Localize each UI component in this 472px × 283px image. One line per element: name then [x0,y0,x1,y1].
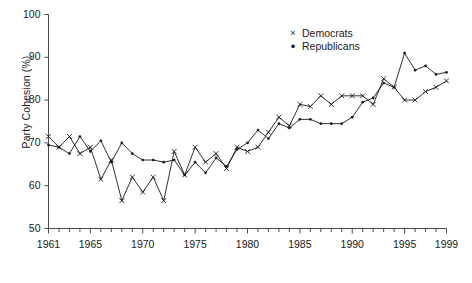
y-tick-label: 100 [11,9,41,20]
series-republicans [47,52,448,177]
x-tick-label: 1999 [427,239,467,250]
legend-item-democrats: × Democrats [286,27,360,40]
figure-container: Party Cohesion (%) 5060708090100 1961196… [0,0,472,283]
legend-label-republicans: Republicans [300,40,360,53]
x-tick-label: 1965 [70,239,110,250]
x-tick-label: 1985 [280,239,320,250]
data-series-group [46,52,449,203]
chart-legend: × Democrats • Republicans [286,27,360,53]
legend-label-democrats: Democrats [300,27,353,40]
x-tick-label: 1975 [175,239,215,250]
x-tick-label: 1961 [29,239,69,250]
legend-marker-dot-icon: • [286,40,300,53]
x-tick-label: 1995 [385,239,425,250]
x-tick-label: 1990 [332,239,372,250]
axes-group [45,15,447,234]
x-tick-label: 1970 [123,239,163,250]
legend-item-republicans: • Republicans [286,40,360,53]
y-tick-label: 50 [11,223,41,234]
x-tick-label: 1980 [228,239,268,250]
y-tick-label: 70 [11,137,41,148]
y-tick-label: 80 [11,94,41,105]
series-democrats [46,76,449,203]
y-tick-label: 90 [11,51,41,62]
y-tick-label: 60 [11,180,41,191]
